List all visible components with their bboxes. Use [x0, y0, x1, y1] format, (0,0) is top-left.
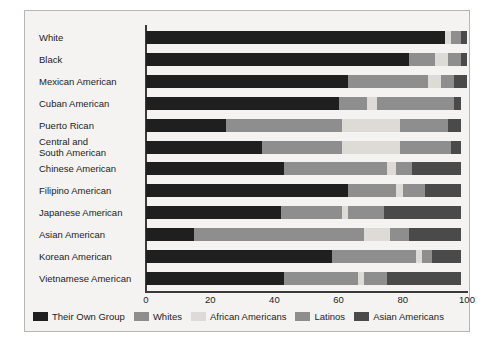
- bar-row: [146, 162, 467, 175]
- legend-label: Their Own Group: [52, 311, 125, 322]
- bar-segment: [432, 250, 461, 263]
- y-axis-label: Cuban American: [39, 98, 109, 109]
- bar-segment: [339, 97, 368, 110]
- plot-area: [146, 27, 467, 289]
- bar-row: [146, 184, 467, 197]
- bar-segment: [146, 31, 445, 44]
- chart-legend: Their Own GroupWhitesAfrican AmericansLa…: [33, 308, 463, 324]
- bar-row: [146, 119, 467, 132]
- y-axis-label: Black: [39, 54, 62, 65]
- bar-segment: [400, 119, 448, 132]
- bar-segment: [409, 53, 435, 66]
- y-axis-labels: WhiteBlackMexican AmericanCuban American…: [39, 27, 143, 289]
- y-axis-label: Chinese American: [39, 163, 116, 174]
- bar-row: [146, 272, 467, 285]
- bar-segment: [387, 272, 461, 285]
- bar-segment: [194, 228, 364, 241]
- bar-segment: [284, 162, 387, 175]
- legend-item[interactable]: Asian Americans: [354, 311, 444, 322]
- bar-segment: [367, 97, 377, 110]
- bar-row: [146, 206, 467, 219]
- bar-segment: [435, 53, 448, 66]
- y-axis-label: Asian American: [39, 229, 105, 240]
- bar-segment: [146, 75, 348, 88]
- bar-segment: [364, 228, 390, 241]
- y-axis-label: Mexican American: [39, 76, 117, 87]
- bar-segment: [400, 141, 451, 154]
- bar-segment: [262, 141, 342, 154]
- x-tick-label: 60: [333, 294, 344, 305]
- bar-segment: [461, 53, 467, 66]
- bar-row: [146, 141, 467, 154]
- bar-segment: [348, 184, 396, 197]
- bar-segment: [454, 75, 467, 88]
- bar-segment: [348, 75, 428, 88]
- bar-segment: [146, 53, 409, 66]
- bar-row: [146, 228, 467, 241]
- legend-label: Latinos: [314, 311, 345, 322]
- y-axis-label: Korean American: [39, 251, 112, 262]
- bar-segment: [451, 31, 461, 44]
- bar-segment: [281, 206, 342, 219]
- y-axis-label: Puerto Rican: [39, 120, 94, 131]
- bar-segment: [461, 31, 467, 44]
- bar-segment: [396, 162, 412, 175]
- bar-segment: [448, 119, 461, 132]
- bar-row: [146, 250, 467, 263]
- x-tick-label: 80: [398, 294, 409, 305]
- bar-segment: [146, 228, 194, 241]
- legend-item[interactable]: African Americans: [191, 311, 287, 322]
- legend-label: African Americans: [210, 311, 287, 322]
- bar-segment: [342, 119, 400, 132]
- bar-segment: [422, 250, 432, 263]
- legend-item[interactable]: Their Own Group: [33, 311, 125, 322]
- bar-segment: [146, 97, 339, 110]
- legend-swatch: [295, 312, 310, 321]
- y-axis-label: Vietnamese American: [39, 273, 131, 284]
- legend-swatch: [191, 312, 206, 321]
- legend-item[interactable]: Latinos: [295, 311, 345, 322]
- y-axis-label: Central andSouth American: [39, 136, 106, 158]
- bar-segment: [284, 272, 358, 285]
- bar-row: [146, 75, 467, 88]
- bar-segment: [226, 119, 342, 132]
- bar-row: [146, 31, 467, 44]
- x-tick-label: 40: [269, 294, 280, 305]
- bar-row: [146, 97, 467, 110]
- bar-segment: [387, 162, 397, 175]
- x-tick-label: 100: [459, 294, 475, 305]
- bar-segment: [412, 162, 460, 175]
- bar-segment: [454, 97, 460, 110]
- bar-segment: [377, 97, 454, 110]
- bar-segment: [146, 141, 262, 154]
- bar-row: [146, 53, 467, 66]
- chart-figure: WhiteBlackMexican AmericanCuban American…: [24, 10, 470, 332]
- y-axis-label: White: [39, 32, 63, 43]
- legend-label: Whites: [153, 311, 182, 322]
- bar-segment: [146, 119, 226, 132]
- bar-segment: [425, 184, 460, 197]
- x-tick-label: 20: [205, 294, 216, 305]
- legend-swatch: [33, 312, 48, 321]
- bar-segment: [146, 250, 332, 263]
- bar-segment: [428, 75, 441, 88]
- bar-segment: [364, 272, 386, 285]
- bar-segment: [146, 272, 284, 285]
- bar-segment: [342, 141, 400, 154]
- legend-label: Asian Americans: [373, 311, 444, 322]
- bar-segment: [146, 206, 281, 219]
- bar-segment: [332, 250, 415, 263]
- legend-item[interactable]: Whites: [134, 311, 182, 322]
- bar-segment: [451, 141, 461, 154]
- y-axis-label: Filipino American: [39, 185, 111, 196]
- bar-segment: [403, 184, 425, 197]
- bar-segment: [448, 53, 461, 66]
- x-axis-line: [145, 291, 468, 293]
- bar-segment: [146, 162, 284, 175]
- bar-segment: [384, 206, 461, 219]
- bar-segment: [390, 228, 409, 241]
- y-axis-label: Japanese American: [39, 207, 122, 218]
- bar-segment: [146, 184, 348, 197]
- legend-swatch: [354, 312, 369, 321]
- bar-segment: [409, 228, 460, 241]
